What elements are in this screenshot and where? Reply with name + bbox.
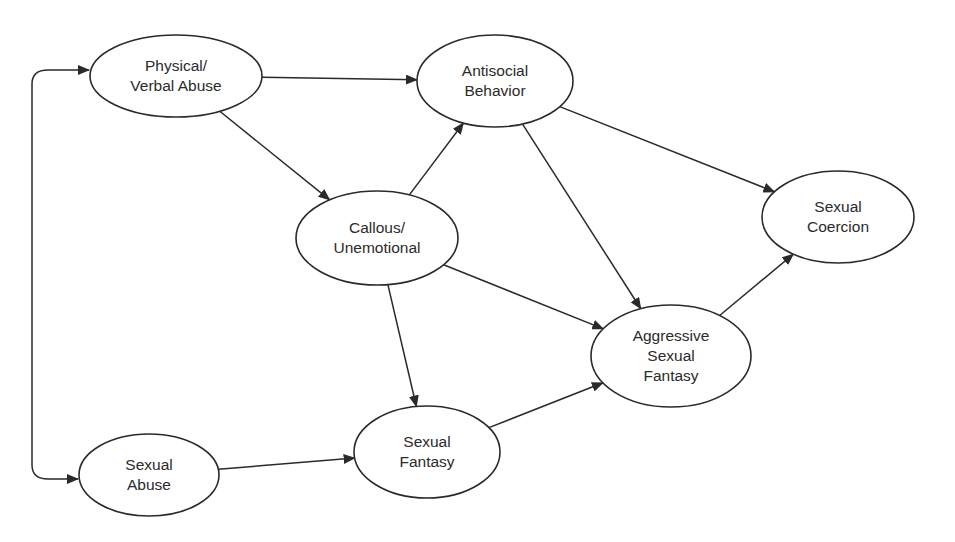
node-label-line: Fantasy	[399, 452, 454, 472]
node-label-line: Antisocial	[462, 61, 528, 81]
node-label-line: Behavior	[462, 81, 528, 101]
edge-sexual-fantasy-to-aggressive-sexual-fantasy	[489, 383, 603, 428]
node-label-antisocial-behavior: AntisocialBehavior	[462, 61, 528, 101]
edge-callous-unemotional-to-sexual-fantasy	[388, 285, 416, 407]
node-label-line: Sexual	[807, 197, 869, 217]
edge-antisocial-behavior-to-aggressive-sexual-fantasy	[523, 124, 641, 309]
node-label-line: Sexual	[125, 455, 172, 475]
edge-callous-unemotional-to-aggressive-sexual-fantasy	[444, 265, 604, 329]
node-label-line: Aggressive	[633, 326, 710, 346]
node-label-line: Coercion	[807, 217, 869, 237]
correlation-arrow-lower	[32, 465, 78, 479]
node-label-line: Sexual	[399, 432, 454, 452]
edge-physical-verbal-abuse-to-antisocial-behavior	[262, 77, 417, 79]
correlation-arrow-upper	[32, 70, 89, 465]
node-label-line: Sexual	[633, 346, 710, 366]
node-label-line: Callous/	[333, 218, 420, 238]
node-label-line: Fantasy	[633, 366, 710, 386]
node-label-line: Unemotional	[333, 238, 420, 258]
edge-physical-verbal-abuse-to-callous-unemotional	[220, 111, 330, 200]
edge-callous-unemotional-to-antisocial-behavior	[409, 123, 463, 195]
node-label-aggressive-sexual-fantasy: AggressiveSexualFantasy	[633, 326, 710, 386]
edge-sexual-abuse-to-sexual-fantasy	[218, 458, 354, 469]
node-label-line: Verbal Abuse	[130, 76, 221, 96]
edge-antisocial-behavior-to-sexual-coercion	[560, 107, 775, 192]
node-label-line: Physical/	[130, 56, 221, 76]
node-label-line: Abuse	[125, 475, 172, 495]
nodes-layer	[79, 35, 914, 516]
edge-aggressive-sexual-fantasy-to-sexual-coercion	[720, 254, 794, 315]
node-label-physical-verbal-abuse: Physical/Verbal Abuse	[130, 56, 221, 96]
node-label-callous-unemotional: Callous/Unemotional	[333, 218, 420, 258]
node-label-sexual-fantasy: SexualFantasy	[399, 432, 454, 472]
node-label-sexual-abuse: SexualAbuse	[125, 455, 172, 495]
node-label-sexual-coercion: SexualCoercion	[807, 197, 869, 237]
